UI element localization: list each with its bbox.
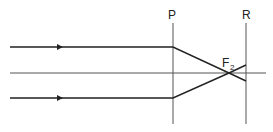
focus-letter: F (222, 56, 229, 70)
plane-p-label: P (168, 8, 176, 22)
plane-r-label: R (242, 8, 251, 22)
optics-diagram: P R F 2 (0, 0, 273, 132)
upper-ray-arrowhead-icon (57, 44, 63, 50)
focus-subscript: 2 (230, 63, 235, 72)
focus-label: F (222, 56, 229, 70)
lower-ray-arrowhead-icon (57, 95, 63, 101)
upper-ray (10, 47, 246, 81)
lower-ray (10, 65, 246, 98)
